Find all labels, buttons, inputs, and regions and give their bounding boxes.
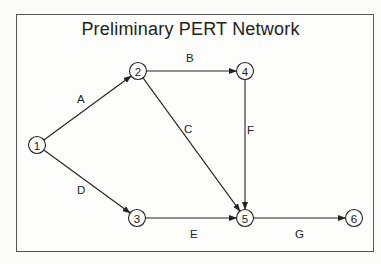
activity-arrow-a [44,76,131,140]
event-node-3: 3 [129,210,146,227]
activity-label-f: F [247,124,254,136]
activity-label-g: G [295,228,304,240]
activity-label-d: D [77,184,85,196]
node-label: 3 [134,213,140,225]
node-label: 2 [135,66,141,78]
pert-network: ABCDEFG 123456 [0,0,381,264]
activity-arrow-c [143,78,240,211]
activity-label-c: C [184,123,192,135]
event-node-1: 1 [29,137,46,154]
activity-arrow-d [44,150,130,213]
event-node-5: 5 [237,210,254,227]
activity-label-a: A [77,93,85,105]
event-node-4: 4 [237,63,254,80]
node-label: 4 [242,66,249,78]
node-label: 1 [34,140,40,152]
event-node-6: 6 [346,210,363,227]
node-label: 5 [242,213,248,225]
node-label: 6 [351,213,357,225]
activity-label-b: B [186,52,194,64]
event-node-2: 2 [130,63,147,80]
activity-label-e: E [190,228,198,240]
